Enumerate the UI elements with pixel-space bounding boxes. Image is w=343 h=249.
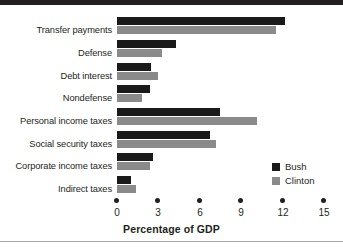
bar-clinton <box>117 26 276 34</box>
legend-swatch-icon <box>272 163 280 171</box>
category-label: Nondefense <box>0 93 112 103</box>
bar-clinton <box>117 162 150 170</box>
category-label: Social security taxes <box>0 139 112 149</box>
bar-bush <box>117 108 220 116</box>
axis-tick-dot <box>280 198 285 203</box>
bar-clinton <box>117 140 216 148</box>
axis-tick-label: 3 <box>143 207 173 218</box>
category-label: Transfer payments <box>0 25 112 35</box>
bottom-divider-rule <box>0 241 343 242</box>
axis-tick-label: 9 <box>226 207 256 218</box>
bar-bush <box>117 17 285 25</box>
axis-tick-label: 0 <box>102 207 132 218</box>
plot-area: Transfer payments Defense Debt interest … <box>0 5 343 241</box>
bar-bush <box>117 63 151 71</box>
legend-label: Bush <box>285 161 307 172</box>
axis-tick-dot <box>114 198 119 203</box>
axis-tick-dot <box>155 198 160 203</box>
bar-bush <box>117 131 210 139</box>
legend-label: Clinton <box>285 175 315 186</box>
bar-clinton <box>117 185 136 193</box>
category-label: Debt interest <box>0 71 112 81</box>
category-label: Defense <box>0 48 112 58</box>
axis-tick-label: 6 <box>185 207 215 218</box>
bar-bush <box>117 176 131 184</box>
category-label: Personal income taxes <box>0 116 112 126</box>
category-label: Indirect taxes <box>0 184 112 194</box>
legend-swatch-icon <box>272 177 280 185</box>
legend-item-clinton: Clinton <box>272 175 315 186</box>
bar-clinton <box>117 72 158 80</box>
x-axis-title: Percentage of GDP <box>0 223 343 235</box>
bar-clinton <box>117 117 257 125</box>
chart-figure: Transfer payments Defense Debt interest … <box>0 0 343 249</box>
axis-tick-label: 12 <box>268 207 298 218</box>
axis-tick-label: 15 <box>309 207 339 218</box>
bar-bush <box>117 85 150 93</box>
axis-tick-dot <box>197 198 202 203</box>
bar-bush <box>117 40 176 48</box>
bar-clinton <box>117 49 162 57</box>
axis-tick-dot <box>321 198 326 203</box>
category-label: Corporate income taxes <box>0 161 112 171</box>
bar-clinton <box>117 94 142 102</box>
bar-bush <box>117 153 153 161</box>
legend-item-bush: Bush <box>272 161 307 172</box>
axis-tick-dot <box>238 198 243 203</box>
